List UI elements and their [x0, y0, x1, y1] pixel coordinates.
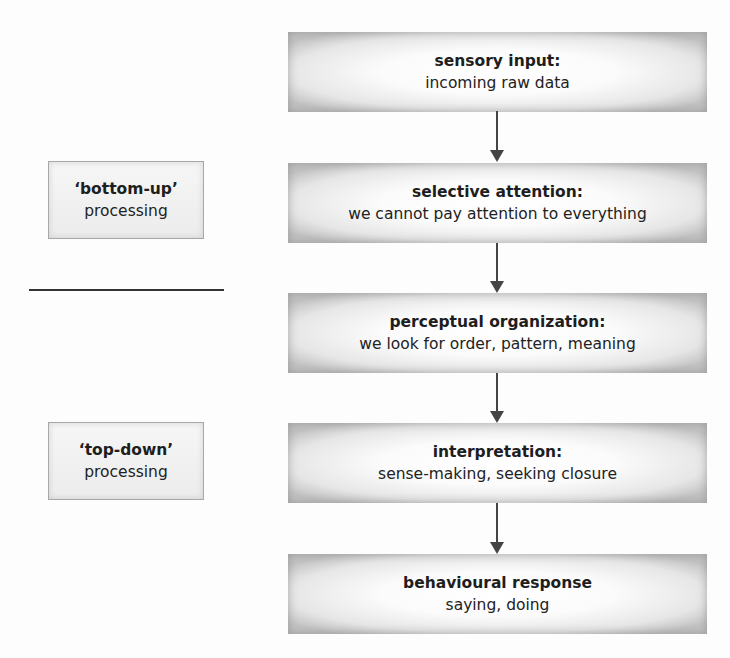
stage-description: saying, doing [446, 594, 550, 616]
bottom-up-processing-label: ‘bottom-up’ processing [48, 161, 204, 239]
divider-line [29, 289, 224, 291]
side-label-title: ‘bottom-up’ [74, 178, 178, 200]
side-label-description: processing [84, 461, 168, 483]
down-arrow-icon [490, 111, 504, 162]
stage-description: we look for order, pattern, meaning [359, 333, 635, 355]
top-down-processing-label: ‘top-down’ processing [48, 422, 204, 500]
stage-behavioural-response: behavioural response saying, doing [288, 554, 707, 634]
stage-title: behavioural response [403, 572, 592, 594]
stage-description: we cannot pay attention to everything [348, 203, 647, 225]
stage-title: sensory input: [435, 50, 561, 72]
down-arrow-icon [490, 243, 504, 293]
stage-perceptual-organization: perceptual organization: we look for ord… [288, 293, 707, 373]
down-arrow-icon [490, 503, 504, 554]
stage-title: interpretation: [433, 441, 563, 463]
stage-title: perceptual organization: [390, 311, 606, 333]
down-arrow-icon [490, 373, 504, 423]
side-label-description: processing [84, 200, 168, 222]
stage-title: selective attention: [412, 181, 583, 203]
stage-sensory-input: sensory input: incoming raw data [288, 32, 707, 112]
perception-process-diagram: sensory input: incoming raw data selecti… [0, 0, 730, 658]
stage-interpretation: interpretation: sense-making, seeking cl… [288, 423, 707, 503]
stage-description: sense-making, seeking closure [378, 463, 617, 485]
stage-selective-attention: selective attention: we cannot pay atten… [288, 163, 707, 243]
stage-description: incoming raw data [425, 72, 570, 94]
side-label-title: ‘top-down’ [79, 439, 173, 461]
